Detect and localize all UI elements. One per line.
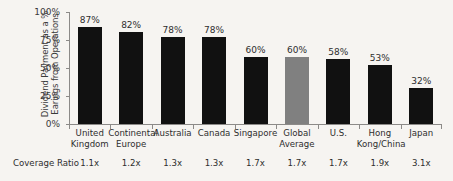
bar-value-label: 32%	[411, 76, 431, 86]
x-axis-category-label: Singapore	[233, 128, 279, 139]
bar-value-label: 58%	[328, 47, 348, 57]
bar-group[interactable]: 58%	[326, 43, 350, 124]
y-axis-tick-label: 25%	[40, 91, 60, 101]
x-axis-category-label: Canada	[191, 128, 237, 139]
bar-group[interactable]: 78%	[202, 21, 226, 124]
bar[interactable]	[326, 59, 350, 124]
bar-group[interactable]: 32%	[409, 72, 433, 124]
coverage-ratio-value: 3.1x	[400, 158, 442, 168]
bar[interactable]	[119, 32, 143, 124]
bar[interactable]	[78, 27, 102, 124]
bar-group[interactable]: 78%	[161, 21, 185, 124]
bar-group[interactable]: 53%	[368, 49, 392, 124]
x-axis-category-label: United Kingdom	[67, 128, 113, 150]
bar[interactable]	[202, 37, 226, 124]
bar-group[interactable]: 60%	[285, 41, 309, 124]
coverage-ratio-value: 1.3x	[152, 158, 194, 168]
x-axis-category-label: Australia	[150, 128, 196, 139]
x-axis-category-label: Hong Kong/China	[357, 128, 403, 150]
y-axis-tick-label: 75%	[40, 35, 60, 45]
bar-value-label: 78%	[163, 25, 183, 35]
x-axis-category-label: U.S.	[315, 128, 361, 139]
bar-value-label: 87%	[80, 15, 100, 25]
bar-value-label: 60%	[287, 45, 307, 55]
bar[interactable]	[368, 65, 392, 124]
bar-value-label: 82%	[121, 20, 141, 30]
coverage-ratio-row: Coverage Ratio 1.1x1.2x1.3x1.3x1.7x1.7x1…	[0, 158, 453, 178]
y-axis-tick-label: 100%	[34, 7, 60, 17]
bar-group[interactable]: 87%	[78, 11, 102, 124]
coverage-ratio-value: 1.9x	[359, 158, 401, 168]
bar-value-label: 78%	[204, 25, 224, 35]
coverage-ratio-value: 1.7x	[317, 158, 359, 168]
x-axis-category-labels: United KingdomContinental EuropeAustrali…	[69, 128, 442, 154]
coverage-ratio-value: 1.7x	[235, 158, 277, 168]
bars-layer: 87%82%78%78%60%60%58%53%32%	[69, 12, 442, 125]
plot-area: 100%75%50%25%0% 87%82%78%78%60%60%58%53%…	[69, 12, 442, 125]
coverage-ratio-value: 1.7x	[276, 158, 318, 168]
x-axis-category-label: Continental Europe	[108, 128, 154, 150]
x-axis-category-label: Global Average	[274, 128, 320, 150]
bar[interactable]	[161, 37, 185, 124]
bar[interactable]	[244, 57, 268, 124]
y-axis-tick-label: 50%	[40, 63, 60, 73]
bar[interactable]	[409, 88, 433, 124]
coverage-ratio-value: 1.1x	[69, 158, 111, 168]
x-axis-category-label: Japan	[398, 128, 444, 139]
coverage-ratio-value: 1.2x	[110, 158, 152, 168]
bar-value-label: 53%	[370, 53, 390, 63]
bar-highlight[interactable]	[285, 57, 309, 124]
dividend-payout-bar-chart: Dividend Payment as a % Earings from Ope…	[0, 0, 453, 181]
coverage-ratio-value: 1.3x	[193, 158, 235, 168]
bar-value-label: 60%	[245, 45, 265, 55]
y-axis-tick-label: 0%	[46, 119, 60, 129]
bar-group[interactable]: 82%	[119, 16, 143, 124]
bar-group[interactable]: 60%	[244, 41, 268, 124]
